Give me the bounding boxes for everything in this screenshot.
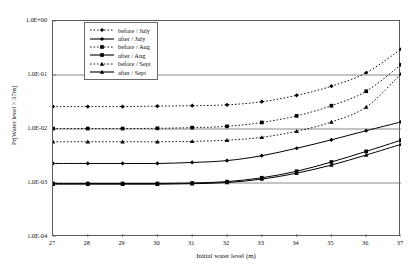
series-marker bbox=[86, 127, 90, 131]
legend-swatch-square-icon bbox=[89, 51, 115, 59]
legend-swatch-square-icon bbox=[89, 43, 115, 51]
series-marker bbox=[190, 126, 194, 130]
x-tick-label: 27 bbox=[40, 239, 64, 246]
legend-marker bbox=[100, 28, 104, 32]
legend-marker bbox=[100, 54, 104, 58]
series-marker bbox=[260, 100, 264, 104]
data-series bbox=[53, 142, 401, 186]
series-marker bbox=[155, 161, 159, 165]
series-marker bbox=[190, 160, 194, 164]
series-marker bbox=[260, 154, 264, 158]
series-marker bbox=[225, 158, 229, 162]
data-series bbox=[53, 72, 401, 144]
legend-item: after / Sept bbox=[89, 68, 151, 76]
chart-legend: before / Julyafter / Julybefore / Augaft… bbox=[84, 22, 158, 80]
series-marker bbox=[53, 104, 55, 108]
x-tick-label: 29 bbox=[110, 239, 134, 246]
x-axis-title: Initial water level (m) bbox=[52, 252, 400, 259]
x-tick-label: 32 bbox=[214, 239, 238, 246]
series-marker bbox=[225, 124, 229, 128]
series-marker bbox=[364, 105, 368, 109]
series-marker bbox=[155, 104, 159, 108]
series-marker bbox=[364, 150, 368, 154]
x-tick-label: 37 bbox=[388, 239, 412, 246]
legend-marker bbox=[100, 62, 104, 66]
legend-label: before / Aug bbox=[115, 43, 150, 50]
y-axis-tick-labels: 1.0E+001.0E-011.0E-021.0E-031.0E-04 bbox=[0, 0, 50, 276]
legend-label: before / July bbox=[115, 27, 150, 34]
series-marker bbox=[399, 63, 401, 67]
series-marker bbox=[121, 161, 125, 165]
series-line bbox=[53, 74, 401, 142]
legend-label: after / Sept bbox=[115, 69, 146, 76]
series-marker bbox=[295, 114, 299, 118]
legend-item: before / Sept bbox=[89, 60, 151, 68]
y-tick-label: 1.0E-01 bbox=[27, 70, 47, 77]
legend-label: before / Sept bbox=[115, 60, 151, 67]
series-marker bbox=[364, 89, 368, 93]
legend-item: before / July bbox=[89, 26, 151, 34]
legend-swatch-diamond-icon bbox=[89, 35, 115, 43]
series-marker bbox=[399, 138, 401, 142]
x-tick-label: 36 bbox=[353, 239, 377, 246]
series-marker bbox=[329, 84, 333, 88]
series-marker bbox=[225, 103, 229, 107]
legend-item: after / July bbox=[89, 34, 151, 42]
legend-marker bbox=[100, 45, 104, 49]
series-marker bbox=[330, 104, 334, 108]
series-marker bbox=[86, 104, 90, 108]
y-tick-label: 1.0E+00 bbox=[26, 16, 47, 23]
legend-label: after / Aug bbox=[115, 52, 145, 59]
x-tick-label: 34 bbox=[284, 239, 308, 246]
chart-figure: 1.0E+001.0E-011.0E-021.0E-031.0E-04 Pr[W… bbox=[0, 0, 417, 276]
series-marker bbox=[121, 127, 125, 131]
series-marker bbox=[156, 126, 160, 130]
legend-swatch-diamond-icon bbox=[89, 26, 115, 34]
x-tick-label: 35 bbox=[318, 239, 342, 246]
legend-swatch-triangle-icon bbox=[89, 60, 115, 68]
series-marker bbox=[329, 120, 333, 124]
series-marker bbox=[329, 138, 333, 142]
y-tick-label: 1.0E-03 bbox=[27, 178, 47, 185]
legend-item: before / Aug bbox=[89, 43, 151, 51]
series-marker bbox=[121, 104, 125, 108]
series-marker bbox=[364, 71, 368, 75]
legend-marker bbox=[100, 36, 104, 40]
legend-swatch-triangle-icon bbox=[89, 68, 115, 76]
series-marker bbox=[190, 104, 194, 108]
series-marker bbox=[399, 120, 401, 124]
x-axis-tick-labels: 2728293031323334353637 bbox=[52, 239, 400, 251]
y-tick-label: 1.0E-02 bbox=[27, 124, 47, 131]
series-marker bbox=[295, 146, 299, 150]
series-marker bbox=[86, 161, 90, 165]
series-marker bbox=[53, 127, 55, 131]
series-marker bbox=[295, 93, 299, 97]
legend-item: after / Aug bbox=[89, 51, 151, 59]
series-marker bbox=[399, 142, 401, 146]
y-axis-title: Pr[Water level > 37m] bbox=[10, 56, 17, 176]
legend-label: after / July bbox=[115, 35, 145, 42]
series-marker bbox=[260, 121, 264, 125]
series-line bbox=[53, 144, 401, 184]
x-tick-label: 28 bbox=[75, 239, 99, 246]
y-tick-label: 1.0E-04 bbox=[27, 232, 47, 239]
x-tick-label: 33 bbox=[249, 239, 273, 246]
series-marker bbox=[53, 161, 55, 165]
x-tick-label: 31 bbox=[179, 239, 203, 246]
x-tick-label: 30 bbox=[144, 239, 168, 246]
